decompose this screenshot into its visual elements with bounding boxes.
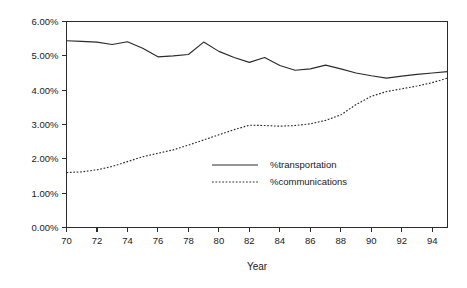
series-line-transportation <box>67 41 448 78</box>
plot-frame <box>67 22 448 228</box>
x-tick-label: 78 <box>183 235 194 246</box>
x-tick-label: 92 <box>396 235 407 246</box>
x-tick-label: 70 <box>61 235 72 246</box>
chart-canvas: 0.00%1.00%2.00%3.00%4.00%5.00%6.00%70727… <box>0 0 467 288</box>
line-chart: 0.00%1.00%2.00%3.00%4.00%5.00%6.00%70727… <box>0 0 467 288</box>
x-axis-title: Year <box>247 261 268 272</box>
y-tick-label: 4.00% <box>32 85 59 96</box>
y-tick-label: 6.00% <box>32 16 59 27</box>
x-tick-label: 72 <box>92 235 103 246</box>
y-tick-label: 0.00% <box>32 222 59 233</box>
x-tick-label: 74 <box>122 235 133 246</box>
x-tick-label: 90 <box>366 235 377 246</box>
y-tick-label: 3.00% <box>32 119 59 130</box>
y-tick-label: 1.00% <box>32 188 59 199</box>
y-tick-label: 2.00% <box>32 153 59 164</box>
legend-label-transportation: %transportation <box>270 159 337 170</box>
x-tick-label: 86 <box>305 235 316 246</box>
y-tick-label: 5.00% <box>32 50 59 61</box>
x-tick-label: 82 <box>244 235 255 246</box>
x-tick-label: 84 <box>275 235 286 246</box>
x-tick-label: 94 <box>427 235 438 246</box>
legend-label-communications: %communications <box>270 176 347 187</box>
x-tick-label: 88 <box>336 235 347 246</box>
series-line-communications <box>67 78 448 172</box>
x-tick-label: 80 <box>214 235 225 246</box>
x-tick-label: 76 <box>153 235 164 246</box>
